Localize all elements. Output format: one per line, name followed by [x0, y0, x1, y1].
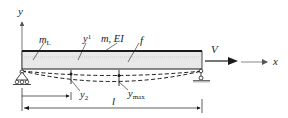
ymax-label: ymax	[127, 88, 145, 101]
right-support-icon	[193, 69, 210, 82]
beam-diagram: y V	[0, 0, 288, 118]
y-axis-label: y	[17, 5, 23, 17]
velocity-label: V	[211, 43, 219, 55]
beam	[22, 51, 202, 69]
dimension-l: l	[24, 95, 202, 113]
y2-label: y2	[79, 89, 89, 102]
left-support-icon	[13, 70, 31, 85]
f-label: f	[140, 34, 145, 46]
mass-l-label: mL	[39, 34, 51, 47]
dim-l-label: l	[112, 95, 115, 107]
deflection-curves	[22, 70, 202, 86]
y1-label: y1	[82, 33, 92, 44]
x-axis: x	[241, 55, 278, 67]
velocity-arrow: V	[205, 43, 238, 65]
beam-props-label: m, EI	[101, 33, 124, 44]
x-axis-label: x	[272, 55, 278, 67]
